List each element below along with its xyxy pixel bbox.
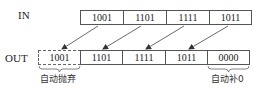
arrow-icon — [189, 26, 228, 49]
in-cell-4: 1011 — [209, 10, 252, 25]
in-label: IN — [18, 9, 30, 21]
in-cell-1: 1001 — [80, 10, 124, 25]
out-cell-3: 1011 — [165, 50, 208, 65]
brace-icon — [39, 66, 80, 72]
in-cell-3: 1111 — [166, 10, 210, 25]
braces — [39, 66, 249, 72]
out-cell-1: 1101 — [80, 50, 123, 65]
arrow-icon — [103, 26, 141, 49]
arrow-icon — [146, 26, 184, 49]
padded-note: 自动补0 — [211, 74, 244, 84]
arrow-icon — [62, 26, 98, 49]
out-cell-2: 1111 — [122, 50, 166, 65]
brace-icon — [208, 66, 249, 72]
out-label: OUT — [5, 52, 28, 64]
shift-arrows — [62, 26, 228, 49]
out-cell-padded: 0000 — [207, 50, 250, 65]
out-cell-discarded: 1001 — [38, 50, 81, 65]
discarded-note: 自动抛弃 — [40, 74, 76, 84]
in-cell-2: 1101 — [123, 10, 167, 25]
